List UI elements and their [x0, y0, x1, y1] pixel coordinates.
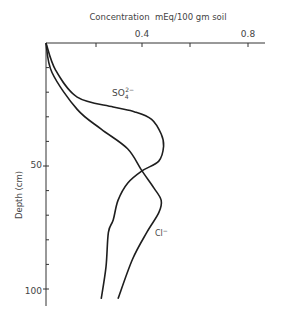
so4-label-subscript: 4 — [125, 93, 129, 100]
so4-curve — [46, 43, 164, 299]
y-tick-label-50: 50 — [31, 160, 43, 170]
so4-label-superscript: 2− — [125, 86, 134, 93]
depth-concentration-chart: Concentration mEq/100 gm soil 0.4 0.8 50… — [0, 0, 282, 321]
so4-label-text: SO — [112, 88, 125, 98]
x-axis-title: Concentration mEq/100 gm soil — [89, 12, 226, 22]
cl-label-superscript: − — [163, 227, 168, 234]
x-tick-label-0.8: 0.8 — [241, 29, 256, 39]
y-axis-title: Depth (cm) — [14, 171, 24, 219]
x-axis-ticks — [96, 43, 248, 47]
so4-label: SO42− — [112, 86, 134, 100]
x-tick-label-0.4: 0.4 — [135, 29, 150, 39]
y-tick-label-100: 100 — [25, 286, 42, 296]
cl-label: Cl− — [155, 227, 168, 238]
cl-label-text: Cl — [155, 229, 163, 238]
